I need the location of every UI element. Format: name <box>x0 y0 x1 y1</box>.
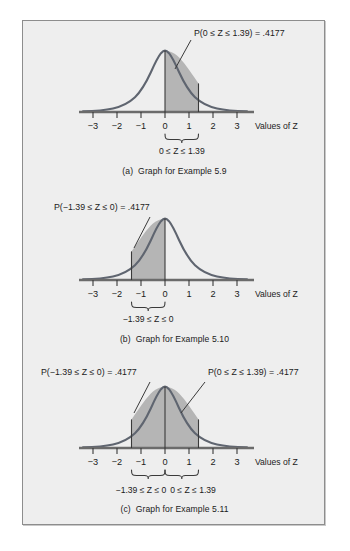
panel-example-5-10: −3 −2 −1 0 1 2 3 Values of Z P(−1.39 ≤ Z… <box>23 193 326 338</box>
x-axis-title: Values of Z <box>255 121 298 131</box>
x-axis-title: Values of Z <box>255 457 298 467</box>
tick-label-1: 1 <box>186 121 191 131</box>
brace-label-right: 0 ≤ Z ≤ 1.39 <box>159 146 205 156</box>
tick-label-0: 0 <box>162 289 167 299</box>
brace-label-right: 0 ≤ Z ≤ 1.39 <box>170 485 216 495</box>
tick-label-neg3: −3 <box>88 457 98 467</box>
x-axis-tick-labels: −3 −2 −1 0 1 2 3 <box>88 289 240 299</box>
brace-left <box>132 302 166 311</box>
panel-c-plot: −3 −2 −1 0 1 2 3 Values of Z P(−1.39 ≤ Z… <box>23 361 326 511</box>
tick-label-neg1: −1 <box>136 121 146 131</box>
tick-label-neg1: −1 <box>136 457 146 467</box>
shaded-area-neg1-39-to-0 <box>132 219 166 280</box>
brace-label-left: −1.39 ≤ Z ≤ 0 <box>116 485 167 495</box>
tick-label-2: 2 <box>210 457 215 467</box>
leader-line-right <box>181 382 205 413</box>
brace-right <box>165 470 199 479</box>
panel-a-plot: −3 −2 −1 0 1 2 3 Values of Z P(0 ≤ Z ≤ 1… <box>23 25 326 170</box>
tick-label-1: 1 <box>186 457 191 467</box>
tick-label-neg3: −3 <box>88 289 98 299</box>
shaded-area-0-to-1-39 <box>165 387 199 448</box>
tick-label-3: 3 <box>234 289 239 299</box>
tick-label-0: 0 <box>162 121 167 131</box>
tick-label-1: 1 <box>186 289 191 299</box>
panel-a-caption: (a) Graph for Example 5.9 <box>23 166 326 176</box>
brace-left <box>132 470 166 479</box>
panel-example-5-11: −3 −2 −1 0 1 2 3 Values of Z P(−1.39 ≤ Z… <box>23 361 326 511</box>
panel-c-caption: (c) Graph for Example 5.11 <box>23 504 326 514</box>
tick-label-3: 3 <box>234 121 239 131</box>
tick-label-neg2: −2 <box>112 289 122 299</box>
probability-label-right: P(0 ≤ Z ≤ 1.39) = .4177 <box>208 367 299 377</box>
x-axis-tick-labels: −3 −2 −1 0 1 2 3 <box>88 121 240 131</box>
probability-label-left: P(−1.39 ≤ Z ≤ 0) = .4177 <box>41 367 137 377</box>
panel-b-caption: (b) Graph for Example 5.10 <box>23 334 326 344</box>
brace-right <box>165 134 199 143</box>
shaded-area-0-to-1-39 <box>165 51 199 112</box>
figure-frame: −3 −2 −1 0 1 2 3 Values of Z P(0 ≤ Z ≤ 1… <box>22 20 325 525</box>
x-axis-title: Values of Z <box>255 289 298 299</box>
x-axis-tick-labels: −3 −2 −1 0 1 2 3 <box>88 457 240 467</box>
probability-label-left: P(−1.39 ≤ Z ≤ 0) = .4177 <box>54 202 150 212</box>
tick-label-2: 2 <box>210 289 215 299</box>
panel-example-5-9: −3 −2 −1 0 1 2 3 Values of Z P(0 ≤ Z ≤ 1… <box>23 25 326 170</box>
tick-label-2: 2 <box>210 121 215 131</box>
tick-label-neg1: −1 <box>136 289 146 299</box>
shaded-area-neg1-39-to-0 <box>132 387 166 448</box>
tick-label-neg3: −3 <box>88 121 98 131</box>
tick-label-neg2: −2 <box>112 457 122 467</box>
tick-label-3: 3 <box>234 457 239 467</box>
normal-distribution-figure: −3 −2 −1 0 1 2 3 Values of Z P(0 ≤ Z ≤ 1… <box>0 0 350 551</box>
panel-b-plot: −3 −2 −1 0 1 2 3 Values of Z P(−1.39 ≤ Z… <box>23 193 326 338</box>
tick-label-neg2: −2 <box>112 121 122 131</box>
probability-label-right: P(0 ≤ Z ≤ 1.39) = .4177 <box>194 28 285 38</box>
brace-label-left: −1.39 ≤ Z ≤ 0 <box>123 314 174 324</box>
tick-label-0: 0 <box>162 457 167 467</box>
